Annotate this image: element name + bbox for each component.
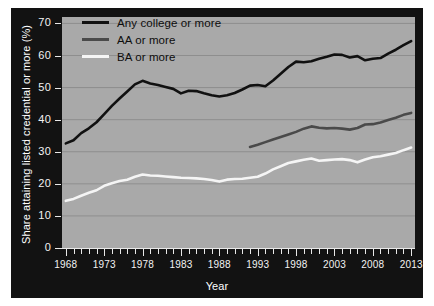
y-tick-label: 40	[25, 113, 51, 125]
x-tick-label: 1983	[161, 259, 201, 270]
x-tick-mark	[388, 249, 389, 254]
x-tick-label: 1998	[276, 259, 316, 270]
y-tick-label: 60	[25, 49, 51, 61]
y-tick-label: 30	[25, 145, 51, 157]
x-tick-mark	[396, 249, 397, 254]
series-line	[66, 148, 411, 201]
y-tick-mark	[55, 120, 61, 121]
x-tick-mark	[89, 249, 90, 254]
y-tick-mark	[55, 152, 61, 153]
y-tick-label: 20	[25, 177, 51, 189]
x-tick-mark	[127, 249, 128, 254]
y-tick-mark	[55, 23, 61, 24]
x-tick-mark	[181, 249, 182, 256]
x-tick-mark	[204, 249, 205, 254]
x-tick-mark	[196, 249, 197, 254]
x-tick-mark	[327, 249, 328, 254]
x-tick-mark	[258, 249, 259, 256]
x-tick-mark	[403, 249, 404, 254]
x-tick-mark	[166, 249, 167, 254]
x-tick-mark	[265, 249, 266, 254]
x-tick-mark	[334, 249, 335, 256]
x-tick-mark	[219, 249, 220, 256]
series-line	[250, 113, 411, 147]
x-tick-mark	[120, 249, 121, 254]
x-tick-label: 1978	[123, 259, 163, 270]
x-tick-label: 1993	[238, 259, 278, 270]
x-tick-mark	[242, 249, 243, 254]
x-tick-mark	[97, 249, 98, 254]
chart-figure: Share attaining listed credential or mor…	[0, 0, 434, 306]
x-tick-mark	[66, 249, 67, 256]
y-tick-label: 70	[25, 16, 51, 28]
legend-label: Any college or more	[117, 17, 221, 29]
x-tick-label: 1968	[46, 259, 86, 270]
x-tick-label: 2003	[314, 259, 354, 270]
y-tick-mark	[55, 216, 61, 217]
x-tick-mark	[112, 249, 113, 254]
legend-swatch	[82, 38, 109, 41]
y-tick-mark	[55, 56, 61, 57]
x-tick-mark	[189, 249, 190, 254]
legend-item: BA or more	[82, 48, 221, 65]
x-tick-mark	[104, 249, 105, 256]
x-tick-mark	[304, 249, 305, 254]
x-tick-mark	[235, 249, 236, 254]
x-tick-label: 2013	[391, 259, 431, 270]
x-tick-label: 2008	[353, 259, 393, 270]
y-tick-label: 50	[25, 81, 51, 93]
x-tick-mark	[135, 249, 136, 254]
x-tick-mark	[281, 249, 282, 254]
x-tick-mark	[311, 249, 312, 254]
y-tick-mark	[55, 184, 61, 185]
x-tick-mark	[212, 249, 213, 254]
legend-swatch	[82, 21, 109, 24]
x-tick-label: 1988	[199, 259, 239, 270]
x-tick-mark	[350, 249, 351, 254]
x-tick-mark	[342, 249, 343, 254]
x-tick-mark	[380, 249, 381, 254]
x-tick-mark	[373, 249, 374, 256]
legend-label: AA or more	[117, 34, 176, 46]
x-tick-mark	[273, 249, 274, 254]
legend-swatch	[82, 55, 109, 58]
x-tick-mark	[288, 249, 289, 254]
x-tick-mark	[296, 249, 297, 256]
x-tick-mark	[365, 249, 366, 254]
y-tick-label: 10	[25, 209, 51, 221]
x-tick-mark	[158, 249, 159, 254]
x-axis-title: Year	[0, 280, 434, 292]
x-tick-mark	[143, 249, 144, 256]
x-tick-mark	[357, 249, 358, 254]
x-tick-mark	[411, 249, 412, 256]
x-tick-mark	[74, 249, 75, 254]
legend-item: AA or more	[82, 31, 221, 48]
y-tick-label: 0	[25, 241, 51, 253]
x-tick-mark	[150, 249, 151, 254]
x-tick-label: 1973	[84, 259, 124, 270]
chart-legend: Any college or moreAA or moreBA or more	[82, 14, 221, 65]
x-tick-mark	[250, 249, 251, 254]
y-tick-mark	[55, 88, 61, 89]
x-tick-mark	[81, 249, 82, 254]
legend-label: BA or more	[117, 51, 176, 63]
legend-item: Any college or more	[82, 14, 221, 31]
x-tick-mark	[319, 249, 320, 254]
x-tick-mark	[173, 249, 174, 254]
x-tick-mark	[227, 249, 228, 254]
